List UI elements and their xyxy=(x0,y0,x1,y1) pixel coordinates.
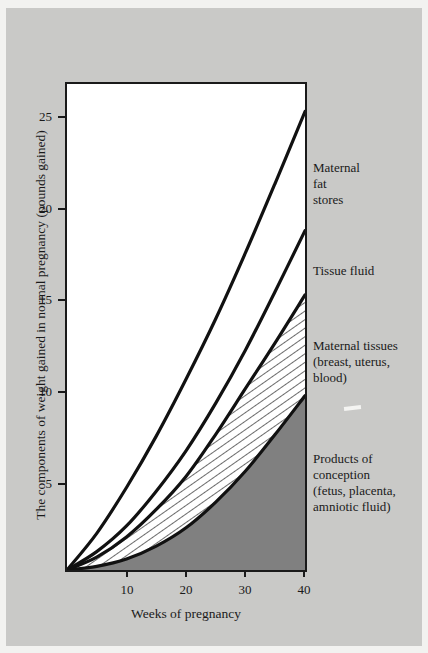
y-tick-10: 10 xyxy=(58,391,65,393)
x-tick-10: 10 xyxy=(126,570,128,577)
y-axis-title-text: The components of weight gained in norma… xyxy=(33,130,49,520)
x-tick-label-20: 20 xyxy=(180,582,193,598)
x-tick-20: 20 xyxy=(185,570,187,577)
y-tick-label-25: 25 xyxy=(39,109,52,125)
y-tick-label-15: 15 xyxy=(39,292,52,308)
y-tick-label-5: 5 xyxy=(46,476,53,492)
annotation-products-of-conception: Products of conception (fetus, placenta,… xyxy=(313,451,396,514)
white-smudge-mark xyxy=(344,405,361,411)
x-tick-30: 30 xyxy=(244,570,246,577)
figure-panel: The components of weight gained in norma… xyxy=(6,8,422,646)
annotation-maternal-tissues: Maternal tissues (breast, uterus, blood) xyxy=(313,338,398,386)
y-tick-label-10: 10 xyxy=(39,384,52,400)
plot-area: 25 20 15 10 5 10 20 30 40 xyxy=(65,82,307,572)
x-tick-label-30: 30 xyxy=(239,582,252,598)
annotation-maternal-fat-stores: Maternal fat stores xyxy=(313,160,360,208)
y-axis-title: The components of weight gained in norma… xyxy=(32,82,50,568)
y-tick-20: 20 xyxy=(58,208,65,210)
x-axis-title: Weeks of pregnancy xyxy=(65,606,307,622)
chart-curves xyxy=(67,84,305,570)
x-tick-label-40: 40 xyxy=(298,582,311,598)
y-tick-25: 25 xyxy=(58,116,65,118)
y-tick-15: 15 xyxy=(58,299,65,301)
x-tick-label-10: 10 xyxy=(121,582,134,598)
y-tick-5: 5 xyxy=(58,483,65,485)
annotation-tissue-fluid: Tissue fluid xyxy=(313,263,374,279)
x-tick-40: 40 xyxy=(303,570,305,577)
y-tick-label-20: 20 xyxy=(39,201,52,217)
